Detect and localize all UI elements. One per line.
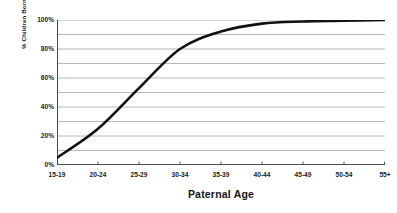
data-series-line — [57, 20, 385, 158]
x-tick-label: 55+ — [362, 170, 397, 180]
y-tick-label: 60% — [28, 74, 54, 82]
x-tick-label: 15-19 — [34, 170, 80, 180]
x-tick-label: 40-44 — [239, 170, 285, 180]
y-tick-label: 20% — [28, 132, 54, 140]
x-tick-label: 20-24 — [75, 170, 121, 180]
x-tick-label: 30-34 — [157, 170, 203, 180]
x-tick-label: 25-29 — [116, 170, 162, 180]
x-tick-label: 50-54 — [321, 170, 367, 180]
x-axis-title: Paternal Age — [57, 188, 385, 200]
y-axis-tick-labels: 100%80%60%40%20%0% — [26, 20, 54, 165]
plot-area — [57, 20, 385, 165]
y-tick-label: 0% — [28, 161, 54, 169]
chart-container: % Children Born 100%80%60%40%20%0% 15-19… — [0, 0, 397, 213]
x-tick-label: 35-39 — [198, 170, 244, 180]
chart-plot-svg — [57, 20, 385, 165]
y-tick-label: 40% — [28, 103, 54, 111]
y-tick-label: 100% — [28, 16, 54, 24]
gridlines-group — [57, 20, 385, 151]
x-tick-label: 45-49 — [280, 170, 326, 180]
y-tick-label: 80% — [28, 45, 54, 53]
x-axis-tick-labels: 15-1920-2425-2930-3435-3940-4445-4950-54… — [57, 170, 385, 182]
